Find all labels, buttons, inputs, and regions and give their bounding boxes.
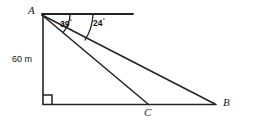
height-measurement-label: 60 m [12,55,32,64]
angle-24-degree-symbol: ° [102,17,104,23]
vertex-label-A: A [28,5,35,16]
vertex-label-C: C [144,107,151,118]
geometry-figure: A B C 39° 24° 60 m [0,0,256,126]
line-of-sight-AC [42,15,148,104]
right-angle-marker [43,95,52,104]
diagram-canvas [0,0,256,126]
angle-label-24: 24° [93,17,105,27]
angle-label-39: 39° [60,18,72,28]
angle-arc-24 [85,15,93,41]
angle-39-degree-symbol: ° [69,18,71,24]
vertex-label-B: B [223,97,230,108]
